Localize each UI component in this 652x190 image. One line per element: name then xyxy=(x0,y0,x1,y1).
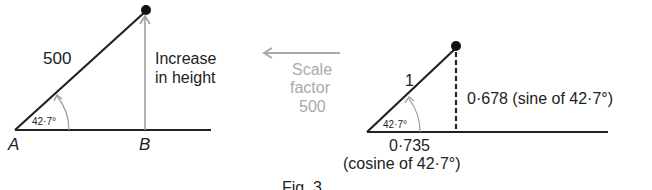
right-hypotenuse-label: 1 xyxy=(405,73,414,89)
left-angle-label: 42·7° xyxy=(32,117,56,127)
in-height-label: in height xyxy=(155,70,216,86)
figure-caption: Fig. 3 xyxy=(282,180,322,190)
factor-label: factor xyxy=(290,80,330,96)
right-hypotenuse xyxy=(367,48,456,132)
left-hypotenuse-label: 500 xyxy=(43,50,71,67)
scale-value-label: 500 xyxy=(299,99,326,115)
left-hypotenuse xyxy=(15,11,146,130)
scale-label: Scale xyxy=(292,62,332,78)
point-a-label: A xyxy=(8,136,19,153)
right-apex-dot xyxy=(451,41,461,51)
cosine-value-label: 0·735 xyxy=(389,138,430,154)
cosine-label: (cosine of 42·7°) xyxy=(343,156,461,172)
sine-label: 0·678 (sine of 42·7°) xyxy=(467,91,613,107)
increase-label: Increase xyxy=(155,51,216,67)
left-apex-dot xyxy=(141,5,151,15)
left-angle-arc xyxy=(57,96,69,130)
right-angle-arc xyxy=(409,99,420,132)
point-b-label: B xyxy=(139,136,150,153)
right-angle-label: 42·7° xyxy=(383,120,407,130)
